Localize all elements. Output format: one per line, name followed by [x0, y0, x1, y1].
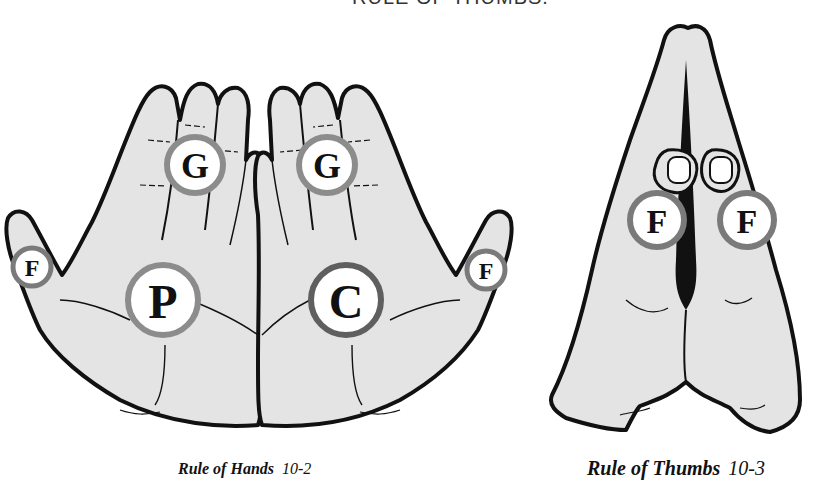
- caption-rule-of-thumbs: Rule of Thumbs10-3: [587, 457, 765, 480]
- svg-text:C: C: [329, 275, 364, 328]
- badge-praying-right-thumb-f: F: [720, 193, 774, 247]
- badge-left-thumb-f: F: [13, 248, 51, 286]
- badge-right-finger-g: G: [299, 137, 355, 193]
- caption-title: Rule of Thumbs: [587, 457, 720, 479]
- svg-text:P: P: [148, 275, 177, 328]
- svg-text:F: F: [25, 255, 40, 281]
- svg-text:F: F: [737, 203, 758, 240]
- badge-right-thumb-f: F: [467, 251, 505, 289]
- badge-left-palm-p: P: [128, 265, 198, 335]
- caption-figure-number: 10-2: [282, 460, 311, 477]
- svg-text:F: F: [479, 258, 494, 284]
- badge-right-palm-c: C: [311, 265, 381, 335]
- caption-rule-of-hands: Rule of Hands10-2: [178, 460, 311, 478]
- badge-praying-left-thumb-f: F: [630, 193, 684, 247]
- svg-text:F: F: [647, 203, 668, 240]
- svg-text:G: G: [181, 146, 209, 186]
- badge-left-finger-g: G: [167, 137, 223, 193]
- caption-figure-number: 10-3: [728, 457, 765, 479]
- caption-title: Rule of Hands: [178, 460, 274, 477]
- svg-text:G: G: [313, 146, 341, 186]
